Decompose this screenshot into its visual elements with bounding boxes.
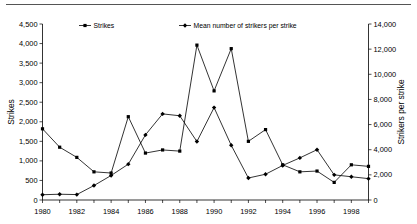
- y-tick-label-left: 4,500: [19, 20, 38, 29]
- data-point: [58, 146, 61, 149]
- data-point: [126, 162, 130, 166]
- data-point: [195, 44, 198, 47]
- x-tick-label: 1980: [34, 207, 50, 216]
- chart-figure: 05001,0001,5002,0002,5003,0003,5004,0004…: [0, 0, 417, 224]
- data-point: [212, 89, 215, 92]
- series-line-2: [43, 108, 369, 195]
- series-1: [41, 44, 370, 184]
- data-point: [75, 156, 78, 159]
- data-point: [212, 105, 216, 109]
- x-tick-label: 1984: [103, 207, 119, 216]
- y-tick-label-right: 12,000: [374, 45, 397, 54]
- series-2: [40, 105, 370, 197]
- data-point: [127, 115, 130, 118]
- y-tick-label-left: 1,000: [19, 156, 38, 165]
- legend-label-2: Mean number of strikers per strike: [194, 22, 297, 30]
- data-point: [161, 148, 164, 151]
- data-point: [92, 183, 96, 187]
- y-tick-label-left: 2,000: [19, 117, 38, 126]
- data-point: [298, 170, 301, 173]
- data-point: [349, 175, 353, 179]
- x-tick-label: 1990: [206, 207, 222, 216]
- data-point: [333, 181, 336, 184]
- data-point: [41, 127, 44, 130]
- data-point: [264, 128, 267, 131]
- y-tick-label-left: 3,000: [19, 78, 38, 87]
- line-chart-canvas: 05001,0001,5002,0002,5003,0003,5004,0004…: [0, 0, 417, 224]
- x-tick-label: 1994: [274, 207, 290, 216]
- series-line-1: [43, 45, 369, 182]
- legend-marker: [83, 24, 86, 27]
- data-point: [230, 47, 233, 50]
- data-point: [315, 169, 318, 172]
- y-tick-label-left: 4,000: [19, 39, 38, 48]
- data-point: [178, 114, 182, 118]
- y-axis-title-right: Strikers per strike: [396, 79, 406, 144]
- data-point: [195, 139, 199, 143]
- y-tick-label-left: 500: [25, 176, 37, 185]
- y-tick-label-right: 0: [374, 196, 378, 205]
- data-point: [366, 176, 370, 180]
- y-tick-label-left: 3,500: [19, 59, 38, 68]
- data-point: [247, 140, 250, 143]
- y-tick-label-left: 1,500: [19, 137, 38, 146]
- data-point: [263, 172, 267, 176]
- data-point: [350, 163, 353, 166]
- data-point: [298, 156, 302, 160]
- data-point: [144, 151, 147, 154]
- data-point: [92, 170, 95, 173]
- chart-legend: StrikesMean number of strikers per strik…: [79, 22, 297, 30]
- data-point: [75, 192, 79, 196]
- legend-label-1: Strikes: [94, 22, 115, 29]
- legend-marker: [183, 23, 187, 27]
- y-tick-label-right: 2,000: [374, 170, 393, 179]
- x-tick-label: 1998: [343, 207, 359, 216]
- data-point: [229, 143, 233, 147]
- x-tick-label: 1996: [309, 207, 325, 216]
- data-point: [367, 165, 370, 168]
- x-tick-label: 1986: [137, 207, 153, 216]
- data-point: [57, 192, 61, 196]
- y-tick-label-right: 14,000: [374, 20, 397, 29]
- x-tick-label: 1992: [240, 207, 256, 216]
- data-point: [40, 193, 44, 197]
- y-tick-label-right: 10,000: [374, 70, 397, 79]
- data-point: [178, 150, 181, 153]
- y-tick-label-right: 4,000: [374, 145, 393, 154]
- x-tick-label: 1988: [172, 207, 188, 216]
- y-tick-label-left: 2,500: [19, 98, 38, 107]
- y-tick-label-right: 6,000: [374, 120, 393, 129]
- data-point: [246, 176, 250, 180]
- x-tick-label: 1982: [69, 207, 85, 216]
- y-tick-label-right: 8,000: [374, 95, 393, 104]
- y-tick-label-left: 0: [33, 196, 37, 205]
- y-axis-title-left: Strikes: [6, 99, 16, 125]
